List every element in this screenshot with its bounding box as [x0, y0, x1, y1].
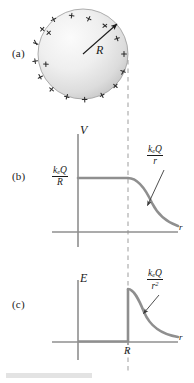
- panel-c-x-axis-label: r: [179, 332, 183, 342]
- panel-b-curve-numerator: keQ: [147, 145, 163, 156]
- panel-b-potential-curve: [78, 178, 178, 226]
- panel-label-b: (b): [12, 170, 25, 182]
- panel-label-c: (c): [12, 298, 25, 310]
- panel-c-y-axis-label: E: [80, 271, 87, 286]
- physics-figure: (a) (b) (c) R V r keQ R keQ r E r R keQ …: [0, 0, 194, 383]
- panel-c-field-curve: [128, 289, 178, 337]
- panel-b-surface-denominator: R: [52, 177, 68, 187]
- panel-c-tick-label-R: R: [124, 345, 130, 356]
- panel-c-plot-group: [52, 280, 178, 360]
- panel-a-sphere-group: [33, 9, 128, 102]
- panel-b-curve-label: keQ r: [147, 145, 163, 167]
- panel-c-curve-numerator: keQ: [147, 269, 163, 280]
- panel-b-curve-denominator: r: [147, 156, 163, 166]
- panel-b-surface-value-label: keQ R: [52, 166, 68, 188]
- panel-c-curve-denominator: r2: [147, 280, 163, 291]
- panel-b-annotation-arrow: [148, 170, 165, 206]
- bottom-gray-bar: [6, 373, 92, 378]
- panel-c-annotation-arrow: [144, 295, 160, 314]
- panel-b-surface-numerator: keQ: [52, 166, 68, 177]
- radius-label-R: R: [96, 43, 103, 58]
- panel-label-a: (a): [12, 47, 25, 59]
- panel-b-y-axis-label: V: [80, 123, 87, 138]
- panel-c-curve-label: keQ r2: [147, 269, 163, 292]
- panel-b-x-axis-label: r: [179, 222, 183, 232]
